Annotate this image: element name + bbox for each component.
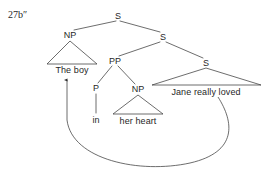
branch-root-to-s2: [120, 21, 160, 32]
node-s-level2: S: [160, 32, 166, 42]
triangle-the-boy: [47, 41, 97, 64]
branch-lines: [74, 21, 203, 113]
branch-root-to-np: [74, 21, 116, 30]
node-pp: PP: [109, 56, 121, 66]
terminal-jane-really-loved: Jane really loved: [171, 87, 240, 97]
branch-s2-to-s3: [166, 42, 203, 58]
terminal-her-heart: her heart: [120, 116, 157, 126]
node-np-subject: NP: [64, 30, 77, 40]
node-s-root: S: [115, 11, 121, 21]
node-p-preposition: P: [93, 83, 99, 93]
triangle-her-heart: [113, 95, 163, 114]
triangle-jane-really-loved: [152, 68, 261, 85]
node-s-level3: S: [203, 58, 209, 68]
node-np-object: NP: [132, 84, 145, 94]
branch-pp-to-p: [98, 66, 112, 83]
branch-s2-to-pp: [119, 42, 160, 56]
terminal-triangles: [47, 41, 261, 114]
terminal-the-boy: The boy: [55, 65, 88, 75]
branch-pp-to-np: [118, 66, 135, 84]
terminal-in: in: [92, 115, 99, 125]
syntax-tree-figure: 27b″: [0, 0, 270, 173]
